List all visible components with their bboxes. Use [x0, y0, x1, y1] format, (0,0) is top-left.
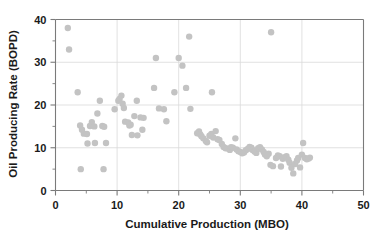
scatter-point: [91, 123, 97, 129]
y-axis-title: Oil Producing Rate (BOPD): [7, 30, 19, 178]
scatter-point: [134, 98, 140, 104]
scatter-point: [131, 113, 137, 119]
scatter-point: [270, 163, 276, 169]
scatter-point: [179, 62, 185, 68]
scatter-point: [118, 92, 124, 98]
scatter-chart-figure: 01020304001020304050 Cumulative Producti…: [0, 0, 385, 236]
x-tick-label: 40: [296, 199, 308, 211]
scatter-point: [100, 166, 106, 172]
scatter-point: [176, 55, 182, 61]
data-points: [65, 25, 313, 177]
scatter-plot-svg: 01020304001020304050 Cumulative Producti…: [0, 0, 385, 236]
y-tick-label: 30: [34, 56, 46, 68]
scatter-point: [78, 166, 84, 172]
scatter-point: [290, 170, 296, 176]
axis-tick-labels: 01020304001020304050: [34, 14, 369, 211]
y-tick-label: 0: [40, 185, 46, 197]
x-tick-label: 50: [357, 199, 369, 211]
scatter-point: [232, 135, 238, 141]
y-tick-label: 20: [34, 99, 46, 111]
scatter-point: [209, 89, 215, 95]
scatter-point: [127, 121, 133, 127]
scatter-point: [212, 128, 218, 134]
scatter-point: [186, 33, 192, 39]
scatter-point: [65, 25, 71, 31]
axis-ticks: [51, 20, 364, 196]
scatter-point: [171, 89, 177, 95]
scatter-point: [92, 140, 98, 146]
x-tick-label: 10: [111, 199, 123, 211]
scatter-point: [153, 55, 159, 61]
scatter-point: [66, 46, 72, 52]
scatter-point: [300, 140, 306, 146]
scatter-point: [297, 164, 303, 170]
grid-lines: [56, 20, 364, 191]
scatter-point: [74, 89, 80, 95]
scatter-point: [111, 106, 117, 112]
scatter-point: [265, 151, 271, 157]
scatter-point: [94, 110, 100, 116]
y-tick-label: 40: [34, 14, 46, 26]
scatter-point: [129, 132, 135, 138]
scatter-point: [183, 85, 189, 91]
scatter-point: [140, 115, 146, 121]
x-tick-label: 0: [52, 199, 58, 211]
scatter-point: [151, 85, 157, 91]
scatter-point: [84, 131, 90, 137]
scatter-point: [84, 140, 90, 146]
x-axis-title: Cumulative Production (MBO): [125, 218, 289, 230]
x-tick-label: 20: [173, 199, 185, 211]
scatter-point: [134, 132, 140, 138]
scatter-point: [268, 29, 274, 35]
scatter-point: [278, 163, 284, 169]
scatter-point: [307, 154, 313, 160]
scatter-point: [161, 106, 167, 112]
scatter-point: [97, 98, 103, 104]
scatter-point: [121, 105, 127, 111]
scatter-point: [163, 118, 169, 124]
y-tick-label: 10: [34, 142, 46, 154]
scatter-point: [103, 140, 109, 146]
scatter-point: [187, 106, 193, 112]
scatter-point: [101, 124, 107, 130]
scatter-point: [139, 127, 145, 133]
scatter-point: [204, 139, 210, 145]
x-tick-label: 30: [234, 199, 246, 211]
